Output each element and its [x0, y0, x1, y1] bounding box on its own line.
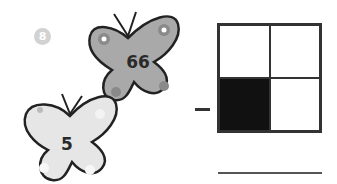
- butterfly-66-label: 66: [126, 52, 150, 72]
- minus-sign: [195, 108, 210, 111]
- fraction-grid: [217, 23, 322, 133]
- problem-number-badge: 8: [34, 28, 51, 45]
- butterfly-5-label: 5: [61, 134, 73, 154]
- grid-cell-top-left: [219, 25, 270, 78]
- grid-cell-top-right: [270, 25, 321, 78]
- grid-cell-bottom-left-shaded: [219, 78, 270, 131]
- grid-cell-bottom-right: [270, 78, 321, 131]
- answer-line[interactable]: [218, 172, 322, 174]
- butterfly-5-icon: 5: [22, 88, 122, 184]
